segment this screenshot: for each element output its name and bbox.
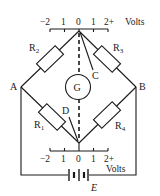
battery-label: E	[90, 182, 97, 193]
battery-icon	[69, 169, 88, 181]
r1-label: R1	[34, 119, 45, 132]
node-c-label: C	[92, 70, 99, 81]
wheatstone-bridge-diagram: −2 1 0 1 2+ Volts R2 R3 R1 R4 A B C D G	[0, 0, 160, 196]
bottom-scale-label: −2	[40, 154, 50, 164]
top-scale-label: 2+	[104, 17, 114, 27]
resistor-r2	[36, 46, 63, 73]
top-scale-label: 1	[91, 17, 96, 27]
r3-label: R3	[113, 42, 124, 55]
bottom-scale-label: 2+	[104, 154, 114, 164]
r4-label: R4	[115, 120, 126, 133]
r2-label: R2	[29, 42, 40, 55]
bottom-voltage-scale: −2 1 0 1 2+ Volts	[40, 143, 126, 174]
node-d-label: D	[62, 105, 69, 116]
top-scale-unit: Volts	[125, 17, 145, 27]
top-scale-label: −2	[40, 17, 50, 27]
bottom-scale-label: 1	[61, 154, 66, 164]
top-scale-label: 0	[76, 17, 81, 27]
bottom-scale-label: 0	[76, 154, 81, 164]
bottom-scale-label: 1	[91, 154, 96, 164]
bottom-scale-unit: Volts	[106, 164, 126, 174]
galvanometer-label: G	[74, 82, 81, 93]
top-voltage-scale: −2 1 0 1 2+ Volts	[40, 17, 145, 32]
node-b-label: B	[139, 81, 146, 92]
node-a-label: A	[10, 81, 18, 92]
top-scale-label: 1	[61, 17, 66, 27]
